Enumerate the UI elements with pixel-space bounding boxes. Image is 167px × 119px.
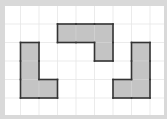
shape-cell (132, 80, 151, 99)
shape-cell (132, 61, 151, 80)
grid-diagram (0, 0, 167, 119)
shape-cell (113, 80, 132, 99)
shape-cell (132, 43, 151, 62)
shape-cell (95, 24, 114, 43)
left-l-shape (21, 43, 58, 99)
shape-cell (21, 61, 40, 80)
shape-cell (76, 24, 95, 43)
right-j-shape (113, 43, 150, 99)
shape-cell (21, 80, 40, 99)
shape-cell (58, 24, 77, 43)
top-center-shape (58, 24, 114, 61)
shape-cell (21, 43, 40, 62)
shape-cell (39, 80, 58, 99)
shape-cell (95, 43, 114, 62)
